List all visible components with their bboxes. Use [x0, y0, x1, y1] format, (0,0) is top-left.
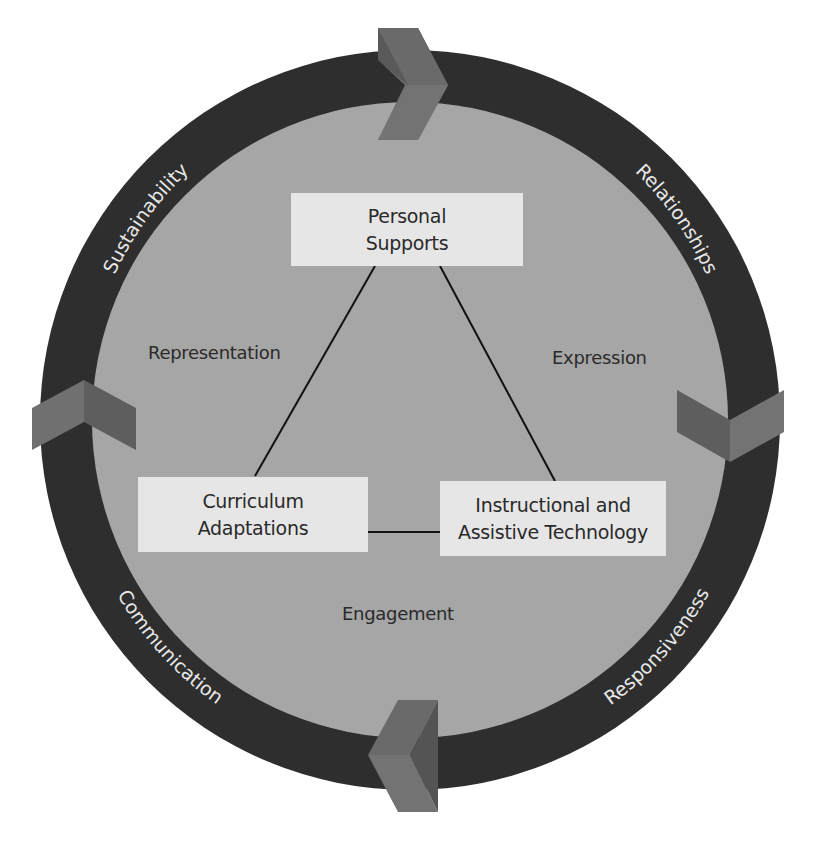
box-instructional-line1: Instructional and: [458, 492, 648, 519]
box-curriculum-line2: Adaptations: [198, 515, 309, 542]
label-engagement: Engagement: [342, 603, 454, 624]
box-personal-supports-line1: Personal: [366, 203, 449, 230]
cycle-diagram: Sustainability Relationships Communicati…: [0, 0, 824, 844]
diagram-graphics: Sustainability Relationships Communicati…: [0, 0, 824, 844]
label-expression: Expression: [552, 347, 647, 368]
box-instructional-line2: Assistive Technology: [458, 519, 648, 546]
box-instructional-technology: Instructional and Assistive Technology: [440, 481, 666, 556]
box-curriculum-adaptations: Curriculum Adaptations: [138, 477, 368, 552]
label-representation: Representation: [148, 342, 281, 363]
box-curriculum-line1: Curriculum: [198, 488, 309, 515]
box-personal-supports-line2: Supports: [366, 230, 449, 257]
box-personal-supports: Personal Supports: [291, 193, 523, 266]
